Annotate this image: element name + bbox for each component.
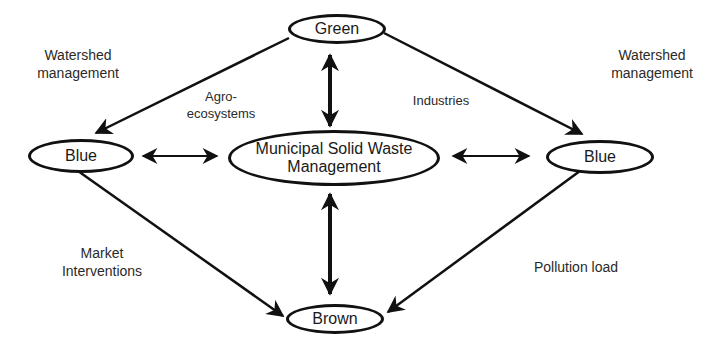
node-blue-right-label: Blue xyxy=(584,148,616,166)
node-municipal-solid-waste-management: Municipal Solid Waste Management xyxy=(228,130,440,186)
node-green-label: Green xyxy=(315,20,359,38)
msw-diagram: Green Blue Municipal Solid Waste Managem… xyxy=(0,0,714,347)
arrow-green-to-blue-right xyxy=(384,33,582,134)
node-blue-left: Blue xyxy=(28,139,134,173)
label-market-interventions: Market Interventions xyxy=(46,244,158,280)
node-brown-label: Brown xyxy=(312,310,357,328)
label-pollution-load: Pollution load xyxy=(516,258,636,276)
label-watershed-management-left: Watershed management xyxy=(18,46,138,82)
node-center-label: Municipal Solid Waste Management xyxy=(245,140,423,175)
node-blue-left-label: Blue xyxy=(65,147,97,165)
node-blue-right: Blue xyxy=(546,140,654,174)
node-green: Green xyxy=(288,14,386,44)
node-brown: Brown xyxy=(286,304,384,334)
label-agro-ecosystems: Agro- ecosystems xyxy=(176,88,266,122)
label-watershed-management-right: Watershed management xyxy=(592,46,712,82)
label-industries: Industries xyxy=(396,92,486,110)
arrow-blue-right-to-brown xyxy=(388,168,584,312)
